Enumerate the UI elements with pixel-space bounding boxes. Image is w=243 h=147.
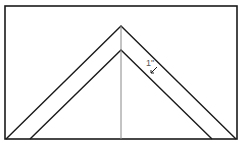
diagram-canvas: 1" [0, 0, 243, 147]
dimension-label: 1" [146, 58, 154, 68]
